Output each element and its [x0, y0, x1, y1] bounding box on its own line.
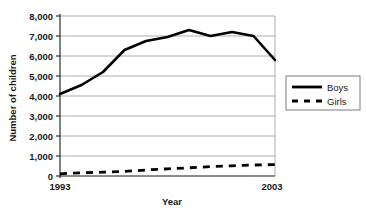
x-axis-title: Year: [162, 196, 182, 207]
x-tick-label-1993: 1993: [49, 181, 70, 192]
line-chart: 8,000 7,000 6,000 5,000 4,000 3,000 2,00…: [0, 0, 366, 211]
y-tick-label-5000: 5,000: [29, 71, 53, 82]
y-tick-label-6000: 6,000: [29, 51, 53, 62]
y-axis-tick-labels: 8,000 7,000 6,000 5,000 4,000 3,000 2,00…: [29, 11, 53, 182]
y-tick-label-7000: 7,000: [29, 31, 53, 42]
y-tick-label-0: 0: [48, 171, 53, 182]
legend-border: [286, 76, 360, 110]
y-tick-label-3000: 3,000: [29, 111, 53, 122]
legend-label-boys: Boys: [327, 82, 348, 93]
legend-label-girls: Girls: [327, 96, 347, 107]
x-tick-label-2003: 2003: [261, 181, 282, 192]
y-tick-label-1000: 1,000: [29, 151, 53, 162]
chart-canvas: 8,000 7,000 6,000 5,000 4,000 3,000 2,00…: [0, 0, 366, 211]
y-tick-label-4000: 4,000: [29, 91, 53, 102]
y-tick-label-8000: 8,000: [29, 11, 53, 22]
y-axis-title: Number of children: [7, 54, 18, 141]
chart-legend: Boys Girls: [286, 76, 360, 110]
y-tick-label-2000: 2,000: [29, 131, 53, 142]
